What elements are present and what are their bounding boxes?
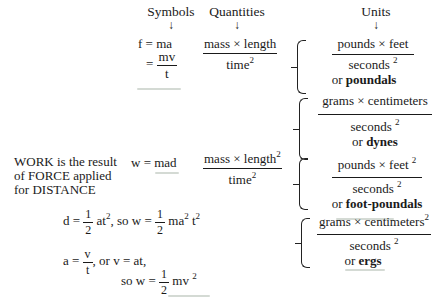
unit-ergs: grams × centimeters2 seconds 2 or ergs [308, 215, 438, 269]
fraction-numerator: mass × length2 [203, 152, 282, 169]
unit-name: or poundals [332, 73, 397, 88]
work-equation: w = mad [131, 155, 177, 171]
unit-name: or ergs [344, 254, 381, 269]
unit-numerator: pounds × feet 2 [332, 158, 423, 178]
force-quantity-fraction: mass × length time2 [203, 37, 277, 71]
deriv-text: , so w = [110, 213, 151, 228]
deriv-text: a = [63, 253, 79, 268]
deriv-text: d = [63, 213, 80, 228]
brace [299, 158, 308, 210]
fraction-denominator: t [86, 263, 89, 277]
or-text: or [332, 196, 343, 211]
momentum-fraction: mv t [157, 50, 178, 80]
units-header: Units ↓ [326, 4, 426, 31]
highlight-underline [155, 172, 179, 174]
unit-denominator: seconds 2 [351, 115, 400, 135]
brace [299, 98, 308, 160]
unit-num-text: pounds × feet [338, 157, 409, 172]
exponent: 2 [425, 212, 430, 222]
fraction-denominator: 2 [157, 223, 163, 237]
symbols-header-label: Symbols [147, 4, 194, 19]
quantities-header-label: Quantities [209, 4, 265, 19]
exponent: 2 [393, 55, 398, 65]
unit-denominator: seconds 2 [353, 178, 402, 197]
unit-name: or dynes [352, 135, 398, 150]
velocity-fraction: v t [83, 248, 93, 276]
work-desc-line-2: of FORCE applied [14, 169, 117, 183]
quantities-header: Quantities ↓ [192, 4, 282, 31]
fraction-numerator: mv [157, 50, 178, 66]
deriv-text: at [97, 213, 106, 228]
exponent: 2 [276, 149, 281, 159]
fraction-denominator: 2 [85, 223, 91, 237]
quantity-den-text: time [226, 57, 249, 72]
highlight-underline [168, 295, 210, 297]
highlight-underline [137, 88, 181, 90]
or-text: or [344, 253, 355, 268]
or-text: or [352, 134, 363, 149]
brace [297, 40, 306, 94]
units-header-label: Units [361, 4, 390, 19]
unit-name-bold: poundals [346, 72, 397, 87]
fraction-denominator: time2 [229, 169, 257, 187]
exponent: 2 [412, 155, 417, 165]
work-desc-line-1: WORK is the result [14, 155, 117, 169]
exponent: 2 [252, 170, 257, 180]
force-equation-momentum: = mv t [146, 50, 177, 80]
exponent: 2 [395, 117, 400, 127]
fraction-numerator: 1 [83, 208, 93, 223]
quantity-den-text: time [229, 172, 252, 187]
fraction-denominator: 2 [161, 283, 167, 297]
work-eq-text: w = mad [131, 155, 177, 170]
fraction-denominator: time2 [226, 54, 254, 72]
unit-den-text: seconds [350, 238, 391, 253]
unit-numerator: grams × centimeters [318, 94, 432, 115]
exponent: 2 [192, 271, 197, 281]
fraction-numerator: v [83, 248, 93, 263]
half-fraction: 1 2 [83, 208, 93, 236]
unit-den-text: seconds [351, 119, 392, 134]
unit-denominator: seconds 2 [350, 235, 399, 254]
unit-denominator: seconds 2 [349, 55, 398, 73]
derivation-line-1: d = 1 2 at2, so w = 1 2 ma2 t2 [63, 208, 200, 236]
unit-numerator: pounds × feet [332, 37, 415, 55]
derivation-line-3: so w = 1 2 mv 2 [121, 268, 197, 296]
unit-numerator: grams × centimeters2 [317, 215, 431, 235]
exponent: 2 [397, 179, 402, 189]
exponent: 2 [196, 211, 201, 221]
half-fraction: 1 2 [159, 268, 169, 296]
down-arrow-icon: ↓ [192, 20, 282, 31]
unit-foot-poundals: pounds × feet 2 seconds 2 or foot-pounda… [312, 158, 438, 212]
quantity-num-text: mass × length [204, 151, 276, 166]
unit-den-text: seconds [349, 57, 390, 72]
unit-poundals: pounds × feet seconds 2 or poundals [318, 37, 428, 88]
highlight-underline [345, 269, 385, 271]
deriv-text: ma [168, 213, 184, 228]
unit-name-bold: ergs [358, 253, 381, 268]
unit-name: or foot-poundals [332, 197, 423, 212]
unit-name-bold: foot-poundals [346, 196, 423, 211]
unit-dynes: grams × centimeters seconds 2 or dynes [310, 94, 438, 150]
work-description: WORK is the result of FORCE applied for … [14, 155, 117, 197]
exponent: 2 [394, 236, 399, 246]
unit-name-bold: dynes [366, 134, 398, 149]
exponent: 2 [249, 55, 254, 65]
work-desc-line-3: for DISTANCE [14, 183, 117, 197]
work-quantity-fraction: mass × length2 time2 [203, 152, 282, 186]
force-eq-2-lhs: = [146, 56, 153, 71]
or-text: or [332, 72, 343, 87]
deriv-text: , or v = at, [93, 253, 147, 268]
fraction-denominator: t [165, 66, 169, 81]
force-quantity: mass × length time2 [203, 37, 277, 71]
half-fraction: 1 2 [155, 208, 165, 236]
fraction-numerator: 1 [159, 268, 169, 283]
fraction-numerator: mass × length [203, 37, 277, 54]
work-quantity: mass × length2 time2 [203, 152, 282, 186]
unit-den-text: seconds [353, 181, 394, 196]
fraction-numerator: 1 [155, 208, 165, 223]
deriv-text: mv [172, 273, 189, 288]
exponent: 2 [184, 211, 189, 221]
deriv-text: so w = [121, 273, 156, 288]
down-arrow-icon: ↓ [326, 20, 426, 31]
unit-num-text: grams × centimeters [319, 214, 425, 229]
